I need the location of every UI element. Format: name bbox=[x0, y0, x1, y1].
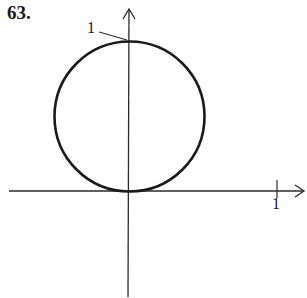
y-axis-label: 1 bbox=[87, 19, 95, 37]
y-label-leader bbox=[99, 32, 127, 40]
y-axis bbox=[128, 9, 129, 297]
graph bbox=[0, 0, 307, 298]
x-axis-label: 1 bbox=[272, 195, 280, 213]
polar-circle bbox=[55, 42, 205, 192]
